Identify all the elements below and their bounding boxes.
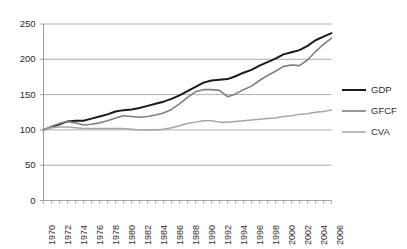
y-tick-label: 0: [6, 196, 36, 206]
y-tick-label: 150: [6, 90, 36, 100]
x-tick-label: 1986: [176, 224, 185, 244]
gridlines: [44, 24, 332, 201]
chart-plot-area: [0, 0, 407, 249]
x-tick-label: 2002: [304, 224, 313, 244]
x-tick-label: 1992: [224, 224, 233, 244]
line-chart: 050100150200250 197019721974197619781980…: [0, 0, 407, 249]
x-tick-label: 1982: [144, 224, 153, 244]
series-lines: [44, 33, 332, 130]
y-tick-label: 250: [6, 19, 36, 29]
legend-swatches: [342, 90, 366, 132]
x-tick-label: 1994: [240, 224, 249, 244]
x-tick-label: 1996: [256, 224, 265, 244]
x-tick-label: 1976: [96, 224, 105, 244]
x-tick-label: 1984: [160, 224, 169, 244]
x-tick-label: 2004: [320, 224, 329, 244]
y-tick-label: 50: [6, 160, 36, 170]
x-tick-label: 1978: [112, 224, 121, 244]
x-tick-label: 1990: [208, 224, 217, 244]
legend-label-cva: CVA: [371, 127, 390, 137]
x-tick-label: 1970: [48, 224, 57, 244]
x-tick-label: 1998: [272, 224, 281, 244]
y-tick-label: 200: [6, 54, 36, 64]
legend-label-gfcf: GFCF: [371, 106, 397, 116]
x-axis-ticks: [44, 201, 332, 205]
x-tick-label: 2000: [288, 224, 297, 244]
x-tick-label: 1974: [80, 224, 89, 244]
y-axis-ticks: [40, 24, 44, 201]
x-tick-label: 1972: [64, 224, 73, 244]
y-tick-label: 100: [6, 125, 36, 135]
x-tick-label: 2006: [336, 224, 345, 244]
x-tick-label: 1988: [192, 224, 201, 244]
x-tick-label: 1980: [128, 224, 137, 244]
legend-label-gdp: GDP: [371, 85, 392, 95]
